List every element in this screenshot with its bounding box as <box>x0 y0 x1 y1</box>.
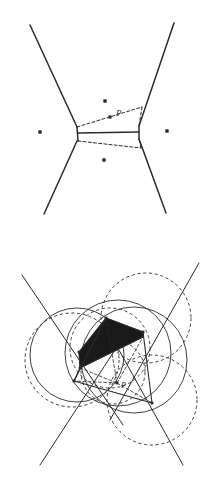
site-right <box>165 129 168 132</box>
site-bottom <box>102 158 105 161</box>
site-p <box>108 115 111 118</box>
vertex-p <box>116 382 119 385</box>
voronoi-site-dots <box>38 99 168 161</box>
vertex-b <box>79 367 82 370</box>
edge-f-e <box>74 381 152 403</box>
voronoi-solid-edges <box>30 23 174 214</box>
figure-page: P P <box>0 0 215 490</box>
vertex-a <box>78 351 81 354</box>
voronoi-dashed-edges <box>77 107 142 148</box>
voronoi-site-insertion-svg: P <box>0 0 215 240</box>
edge-upper-left <box>30 25 77 127</box>
site-top <box>103 99 106 102</box>
edge-d-e <box>143 332 152 403</box>
point-label-p: P <box>115 108 122 118</box>
vertex-d <box>142 331 145 334</box>
edge-upper-right <box>139 23 174 126</box>
edge-left-cap <box>77 127 78 141</box>
delaunay-voronoi-rays <box>22 263 199 465</box>
vertex-c <box>105 317 108 320</box>
vertex-f <box>73 380 76 383</box>
edge-lower-right <box>139 139 166 213</box>
edge-lower-left <box>44 141 77 214</box>
delaunay-circumcircle-svg: P <box>0 245 215 490</box>
point-label-p: P <box>120 381 126 390</box>
shaded-quadrilateral <box>79 318 143 368</box>
dashed-lower <box>78 141 141 148</box>
edge-middle <box>78 132 139 133</box>
site-left <box>38 130 41 133</box>
figure-delaunay-circumcircle-construction: P <box>0 245 215 490</box>
vertex-e <box>151 402 154 405</box>
figure-voronoi-site-insertion: P <box>0 0 215 240</box>
